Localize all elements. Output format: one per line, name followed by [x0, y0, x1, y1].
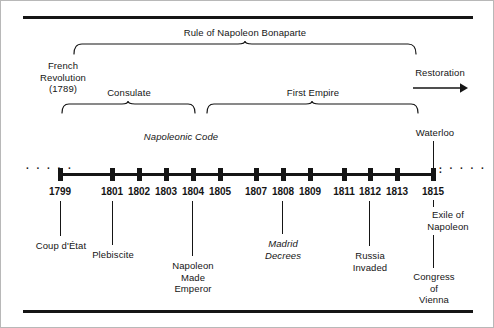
tick-1812 [368, 168, 373, 181]
label-napoleonic-code: Napoleonic Code [126, 131, 236, 143]
label-madrid-decrees: Madrid Decrees [249, 238, 317, 261]
tick-1803 [164, 168, 169, 181]
tick-1809 [308, 168, 313, 181]
label-napoleon-made-emperor: Napoleon Made Emperor [158, 260, 228, 295]
label-congress-of-vienna: Congress of Vienna [399, 271, 469, 306]
bottom-divider-rule [23, 310, 473, 313]
tick-1807 [254, 168, 259, 181]
bracket-label-first-empire: First Empire [263, 87, 363, 99]
timeline-axis [59, 173, 435, 176]
year-label-1799: 1799 [40, 186, 80, 197]
bracket-label-consulate: Consulate [79, 87, 179, 99]
axis-left-dots: · · · · · [26, 167, 74, 171]
tick-1802 [137, 168, 142, 181]
bracket-rule-of-napoleon [73, 41, 417, 55]
label-waterloo: Waterloo [405, 127, 465, 139]
stem-congress-of-vienna [433, 235, 434, 268]
tick-1799 [58, 168, 63, 181]
axis-right-dots: · · · · · · [439, 167, 493, 175]
label-plebiscite: Plebiscite [79, 249, 147, 261]
year-label-1813: 1813 [377, 186, 417, 197]
label-russia-invaded: Russia Invaded [337, 250, 403, 273]
tick-1801 [110, 168, 115, 181]
timeline-diagram: Rule of Napoleon Bonaparte French Revolu… [0, 0, 494, 328]
label-exile-of-napoleon: Exile of Napoleon [405, 209, 491, 232]
tick-1808 [281, 168, 286, 181]
tick-1811 [342, 168, 347, 181]
stem-russia-invaded [369, 201, 370, 246]
label-restoration: Restoration [405, 67, 475, 79]
bracket-first-empire [206, 100, 420, 114]
restoration-arrow-icon [413, 82, 469, 94]
year-label-1805: 1805 [200, 186, 240, 197]
tick-1805 [218, 168, 223, 181]
stem-madrid-decrees [282, 201, 283, 234]
top-divider-rule [23, 16, 473, 19]
stem-coup-detat [60, 201, 61, 236]
stem-waterloo [433, 141, 434, 168]
stem-napoleon-made-emperor [192, 201, 193, 256]
year-label-1815: 1815 [413, 186, 453, 197]
tick-1815 [431, 168, 436, 181]
tick-1813 [395, 168, 400, 181]
tick-1804 [191, 168, 196, 181]
stem-plebiscite [112, 201, 113, 245]
bracket-label-rule-of-napoleon: Rule of Napoleon Bonaparte [145, 27, 345, 39]
stem-exile-of-napoleon [433, 200, 434, 207]
bracket-consulate [61, 100, 197, 114]
